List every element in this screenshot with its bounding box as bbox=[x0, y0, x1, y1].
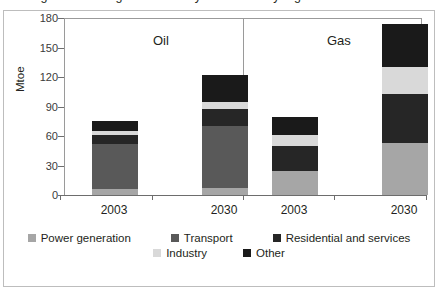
y-tick-label: 150 bbox=[28, 44, 58, 53]
legend-label: Industry bbox=[166, 247, 207, 259]
figure-title: Figure: Oil and gas demand by sector and… bbox=[30, 0, 318, 3]
x-tick-mark bbox=[426, 195, 427, 200]
x-tick-mark bbox=[243, 195, 244, 200]
legend-label: Transport bbox=[184, 232, 233, 244]
bar-gas-2030[interactable] bbox=[382, 24, 428, 195]
legend-label: Residential and services bbox=[286, 232, 411, 244]
panel-label-gas: Gas bbox=[327, 33, 351, 48]
bar-segment bbox=[382, 67, 428, 94]
legend-item[interactable]: Industry bbox=[153, 247, 207, 259]
legend-swatch bbox=[171, 234, 179, 242]
x-tick-label: 2003 bbox=[259, 203, 329, 217]
y-tick-mark bbox=[58, 107, 64, 108]
bar-segment bbox=[272, 117, 318, 135]
legend: Power generationTransportResidential and… bbox=[3, 232, 435, 259]
bar-oil-2030[interactable] bbox=[202, 75, 248, 195]
bar-segment bbox=[202, 188, 248, 195]
bar-segment bbox=[272, 146, 318, 172]
x-tick-label: 2030 bbox=[189, 203, 259, 217]
bar-segment bbox=[202, 102, 248, 109]
y-tick-label: 90 bbox=[28, 103, 58, 112]
chart-page: Figure: Oil and gas demand by sector and… bbox=[0, 0, 439, 290]
bar-segment bbox=[92, 121, 138, 131]
y-tick-mark bbox=[58, 18, 64, 19]
legend-swatch bbox=[243, 249, 251, 257]
y-tick-label: 180 bbox=[28, 14, 58, 23]
bar-segment bbox=[382, 143, 428, 195]
y-tick-mark bbox=[58, 77, 64, 78]
x-tick-label: 2030 bbox=[369, 203, 439, 217]
bar-gas-2003[interactable] bbox=[272, 117, 318, 195]
bar-segment bbox=[272, 171, 318, 195]
legend-label: Power generation bbox=[41, 232, 131, 244]
legend-swatch bbox=[273, 234, 281, 242]
panel-label-oil: Oil bbox=[153, 33, 169, 48]
bar-segment bbox=[382, 94, 428, 143]
bar-segment bbox=[202, 75, 248, 102]
legend-swatch bbox=[28, 234, 36, 242]
legend-row-2: IndustryOther bbox=[3, 247, 435, 259]
x-tick-label: 2003 bbox=[79, 203, 149, 217]
legend-item[interactable]: Residential and services bbox=[273, 232, 411, 244]
y-tick-label: 30 bbox=[28, 162, 58, 171]
bar-segment bbox=[202, 109, 248, 127]
y-tick-mark bbox=[58, 166, 64, 167]
x-tick-mark bbox=[152, 195, 153, 200]
y-tick-label: 0 bbox=[28, 191, 58, 200]
legend-label: Other bbox=[256, 247, 285, 259]
bar-segment bbox=[92, 144, 138, 189]
y-tick-mark bbox=[58, 195, 64, 196]
plot-area: Oil Gas bbox=[64, 18, 422, 195]
bar-oil-2003[interactable] bbox=[92, 121, 138, 195]
x-tick-mark bbox=[334, 195, 335, 200]
bar-segment bbox=[382, 24, 428, 67]
legend-item[interactable]: Other bbox=[243, 247, 285, 259]
y-tick-mark bbox=[58, 136, 64, 137]
bar-segment bbox=[272, 135, 318, 146]
y-tick-mark bbox=[58, 48, 64, 49]
cutoff-title-strip: Figure: Oil and gas demand by sector and… bbox=[0, 0, 439, 9]
bar-segment bbox=[202, 126, 248, 188]
y-tick-label: 120 bbox=[28, 73, 58, 82]
bar-segment bbox=[92, 135, 138, 144]
legend-swatch bbox=[153, 249, 161, 257]
y-tick-label: 60 bbox=[28, 132, 58, 141]
legend-item[interactable]: Power generation bbox=[28, 232, 131, 244]
legend-row-1: Power generationTransportResidential and… bbox=[3, 232, 435, 244]
legend-item[interactable]: Transport bbox=[171, 232, 233, 244]
